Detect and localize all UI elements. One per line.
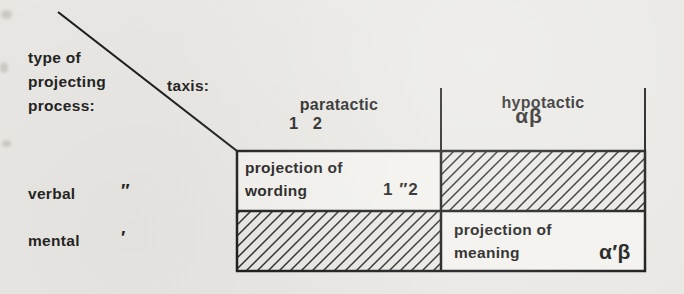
row-mark-mental: ′ (121, 227, 126, 250)
row-mark-verbal: ″ (121, 180, 130, 203)
cell-mental-hypotactic-label: projection of meaning (454, 218, 552, 264)
row-label-mental: mental (28, 229, 80, 252)
cell-verbal-paratactic-label: projection of wording (245, 156, 343, 202)
cell-mental-paratactic-hatch (237, 211, 441, 271)
cell-verbal-paratactic-notation: 1 ″2 (383, 178, 419, 201)
column-header-paratactic: paratactic (237, 93, 441, 116)
row-label-verbal: verbal (28, 182, 75, 205)
column-notation-hypotactic: αβ (427, 104, 631, 127)
cell-mental-hypotactic-notation: α′β (599, 240, 631, 263)
column-axis-label: taxis: (167, 74, 209, 97)
table-grid-and-hatching (0, 0, 684, 294)
scanned-diagram-figure: type of projecting process: taxis: parat… (0, 0, 684, 294)
column-notation-paratactic: 1 2 (289, 112, 327, 135)
row-axis-label: type of projecting process: (28, 46, 106, 118)
cell-verbal-hypotactic-hatch (441, 151, 645, 211)
